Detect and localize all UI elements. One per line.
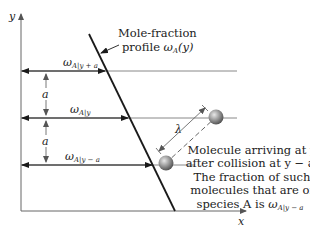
lambda-label: λ [174,123,182,136]
label-omega-y-plus-a: ωA|y + a [63,56,98,70]
molecule-upper [209,110,224,125]
molecule-lower [159,156,174,171]
mole-fraction-profile-line [89,34,175,211]
spacing-label-lower: a [42,135,49,148]
label-omega-y: ωA|y [70,103,91,117]
y-axis-label: y [8,10,16,23]
caption-line2: after collision at y − a. [186,156,310,170]
diffusion-diagram: y x ωA|y + a ωA|y ωA|y − a a a [0,0,310,235]
profile-label: Mole-fraction profile ωA(y) [101,26,197,55]
spacing-label-upper: a [42,88,49,101]
level-labels: ωA|y + a ωA|y ωA|y − a [63,56,100,164]
x-axis-label: x [238,215,245,228]
profile-label-line1: Mole-fraction [118,26,197,40]
caption-line4: molecules that are of [190,183,310,197]
caption: Molecule arriving at y after collision a… [186,143,310,212]
caption-line3: The fraction of such [194,170,310,184]
label-omega-y-minus-a: ωA|y − a [65,150,100,164]
profile-pointer [101,45,119,53]
caption-line5: species A is ωA|y − a [197,197,304,212]
caption-line1: Molecule arriving at y [188,143,310,157]
profile-label-line2: profile ωA(y) [122,40,194,55]
